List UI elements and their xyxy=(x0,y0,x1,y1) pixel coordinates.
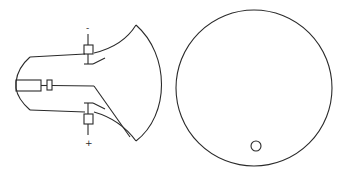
minus-sign-label: - xyxy=(86,23,89,33)
tube-screen-face xyxy=(136,25,162,141)
grid-element xyxy=(47,80,52,90)
beam-spot-circle xyxy=(251,141,261,151)
crt-diagram: - + xyxy=(0,0,346,177)
bottom-deflection-plate xyxy=(84,114,93,124)
plus-sign-label: + xyxy=(85,138,93,148)
tube-neck-top xyxy=(30,54,85,57)
top-plate-wing xyxy=(93,58,105,64)
crt-front-view xyxy=(176,10,332,166)
tube-envelope-top xyxy=(16,57,30,88)
inner-coating-line xyxy=(94,86,130,137)
bottom-plate-wing xyxy=(93,103,105,109)
tube-neck-bottom xyxy=(30,110,85,112)
beam-line xyxy=(52,86,94,87)
screen-face-circle xyxy=(176,10,332,166)
top-deflection-plate xyxy=(84,45,93,54)
electron-gun-cathode xyxy=(16,80,41,91)
tube-funnel-top xyxy=(94,25,136,53)
crt-side-view: - + xyxy=(16,23,162,148)
